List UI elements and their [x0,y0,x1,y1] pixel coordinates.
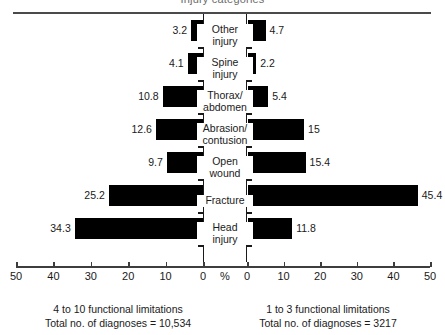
axis-tick [91,262,93,267]
bar-left [156,119,203,140]
axis-tick-inner [198,212,203,214]
axis-tick [128,262,130,267]
category-label: Spine injury [197,57,253,80]
axis-tick-inner [247,80,252,82]
axis-tick-inner [198,47,203,49]
axis-tick-label: 30 [342,270,372,282]
axis-tick [53,262,55,267]
bar-left-value: 4.1 [169,53,184,74]
bar-right [248,119,304,140]
footer-left: 4 to 10 functional limitations Total no.… [18,303,218,330]
footer-right-line1: 1 to 3 functional limitations [228,303,428,317]
axis-tick [247,262,249,267]
bar-right-value: 15.4 [310,152,330,173]
axis-tick-inner [247,212,252,214]
axis-tick-inner [247,47,252,49]
axis-tick [203,262,205,267]
axis-tick-label: 50 [415,270,445,282]
category-label: Fracture [197,195,253,207]
bar-left-value: 25.2 [84,185,104,206]
axis-tick [284,262,286,267]
bar-right-value: 15 [308,119,320,140]
plot-area: 3.24.74.12.210.85.412.6159.715.425.245.4… [0,14,445,262]
bar-right [248,185,418,206]
axis-tick-inner [247,113,252,115]
footer-left-line2: Total no. of diagnoses = 10,534 [18,317,218,331]
bar-left-value: 34.3 [50,218,70,239]
footer-left-line1: 4 to 10 functional limitations [18,303,218,317]
bar-left-value: 9.7 [148,152,163,173]
axis-tick-label: 50 [1,270,31,282]
bar-right [248,152,306,173]
category-label: Other injury [197,24,253,47]
axis-tick [320,262,322,267]
chart-title: Injury categories [0,0,445,5]
axis-tick-inner [198,179,203,181]
axis-tick [357,262,359,267]
category-label: Abrasion/ contusion [197,123,253,146]
axis-tick-label: 30 [76,270,106,282]
axis-tick-label: 10 [269,270,299,282]
footer-right: 1 to 3 functional limitations Total no. … [228,303,428,330]
category-label: Thorax/ abdomen [197,90,253,113]
bar-left-value: 12.6 [131,119,151,140]
bar-left [75,218,203,239]
footer-right-line2: Total no. of diagnoses = 3217 [228,317,428,331]
bar-right [248,218,292,239]
pyramid-chart: Injury categories 3.24.74.12.210.85.412.… [0,0,445,335]
axis-tick [16,262,18,267]
axis-percent-label: % [210,270,240,282]
axis-tick-label: 40 [38,270,68,282]
axis-tick-inner [198,245,203,247]
axis-tick-label: 20 [113,270,143,282]
bar-right-value: 11.8 [296,218,316,239]
axis-tick-inner [198,146,203,148]
axis-tick-label: 40 [378,270,408,282]
axis-tick-label: 20 [305,270,335,282]
bar-left-value: 10.8 [138,86,158,107]
axis-tick-inner [198,113,203,115]
axis-tick [166,262,168,267]
category-label: Open wound [197,156,253,179]
category-label: Head injury [197,222,253,245]
bar-right-value: 45.4 [422,185,442,206]
axis-tick [393,262,395,267]
x-axis: 5040302010001020304050 % [0,262,445,292]
axis-tick-inner [198,80,203,82]
axis-tick [430,262,432,267]
axis-tick-inner [247,179,252,181]
bar-right-value: 4.7 [270,20,285,41]
axis-tick-inner [247,146,252,148]
bar-right-value: 5.4 [272,86,287,107]
axis-tick-label: 10 [151,270,181,282]
bar-right-value: 2.2 [260,53,275,74]
bar-left [109,185,203,206]
axis-tick-inner [247,245,252,247]
bar-left-value: 3.2 [172,20,187,41]
axis-line [16,266,430,268]
